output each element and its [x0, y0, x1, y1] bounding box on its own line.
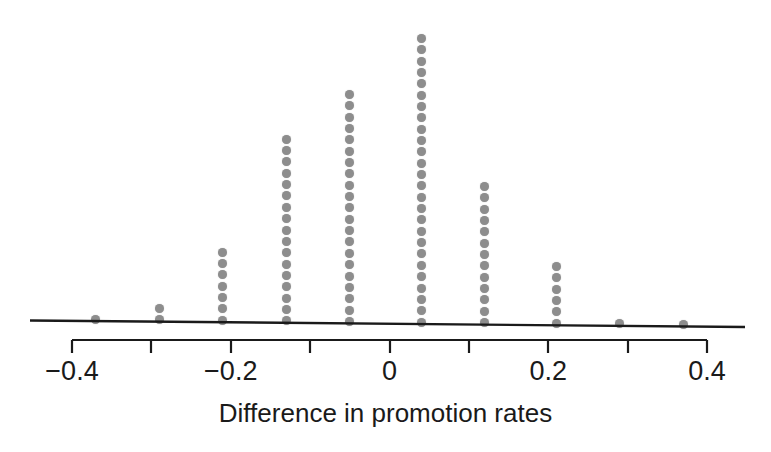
data-dot: [218, 270, 227, 279]
data-dot: [417, 295, 426, 304]
data-dot: [417, 136, 426, 145]
data-dot: [480, 261, 489, 270]
data-dot: [480, 182, 489, 191]
data-dot: [480, 239, 489, 248]
plot-area: [0, 0, 771, 330]
data-dot: [345, 101, 354, 110]
data-dot: [417, 113, 426, 122]
data-dot: [345, 203, 354, 212]
data-dot: [480, 295, 489, 304]
x-tick-label: −0.4: [45, 356, 98, 387]
data-dot: [345, 158, 354, 167]
data-dot: [282, 191, 291, 200]
data-dot: [417, 34, 426, 43]
dotplot-figure: −0.4−0.200.20.4 Difference in promotion …: [0, 0, 771, 452]
data-dot: [218, 259, 227, 268]
data-dot: [417, 181, 426, 190]
data-dot: [218, 293, 227, 302]
data-dot: [417, 57, 426, 66]
data-dot: [480, 250, 489, 259]
data-dot: [345, 215, 354, 224]
data-dot: [552, 273, 561, 282]
data-dot: [417, 68, 426, 77]
data-dot: [282, 260, 291, 269]
data-dot: [282, 282, 291, 291]
data-dot: [480, 273, 489, 282]
data-dot: [282, 248, 291, 257]
data-dot: [282, 157, 291, 166]
data-dot: [417, 272, 426, 281]
data-dot: [417, 238, 426, 247]
data-dot: [282, 146, 291, 155]
data-dot: [345, 237, 354, 246]
x-tick-label: 0.4: [688, 356, 726, 387]
data-dot: [345, 147, 354, 156]
data-dot: [345, 124, 354, 133]
data-dot: [218, 248, 227, 257]
data-dot: [417, 215, 426, 224]
data-dot: [417, 147, 426, 156]
data-dot: [345, 294, 354, 303]
data-dot: [282, 214, 291, 223]
data-dot: [417, 102, 426, 111]
data-dot: [282, 180, 291, 189]
data-dot: [345, 135, 354, 144]
x-tick-label: 0.2: [529, 356, 567, 387]
data-dot: [417, 284, 426, 293]
data-dot: [218, 282, 227, 291]
data-dot: [552, 296, 561, 305]
data-dot: [282, 237, 291, 246]
data-dot: [417, 45, 426, 54]
data-dot: [345, 113, 354, 122]
data-dot: [345, 90, 354, 99]
data-dot: [417, 159, 426, 168]
data-dot: [417, 204, 426, 213]
data-dot: [282, 203, 291, 212]
data-dot: [417, 261, 426, 270]
data-dot: [417, 125, 426, 134]
x-tick-label: −0.2: [204, 356, 257, 387]
x-tick-label: 0: [382, 356, 397, 387]
data-dot: [282, 226, 291, 235]
data-dot: [417, 249, 426, 258]
data-dot: [345, 283, 354, 292]
data-dot: [345, 272, 354, 281]
data-dot: [480, 216, 489, 225]
data-dot: [282, 271, 291, 280]
data-dot: [345, 181, 354, 190]
data-dot: [480, 205, 489, 214]
data-dot: [345, 169, 354, 178]
x-tick-labels: −0.4−0.200.20.4: [0, 356, 771, 392]
axis-ticks: [72, 340, 707, 353]
data-dot: [282, 169, 291, 178]
data-dot: [345, 260, 354, 269]
data-dot: [282, 135, 291, 144]
data-dot: [480, 193, 489, 202]
baseline: [0, 310, 771, 338]
data-dot: [417, 227, 426, 236]
data-dot: [417, 79, 426, 88]
data-dot: [552, 262, 561, 271]
x-axis-title: Difference in promotion rates: [0, 398, 771, 429]
data-dot: [480, 284, 489, 293]
data-dot: [417, 193, 426, 202]
data-dot: [345, 249, 354, 258]
data-dot: [480, 227, 489, 236]
data-dot: [345, 226, 354, 235]
data-dot: [345, 192, 354, 201]
data-dot: [552, 285, 561, 294]
data-dot: [282, 294, 291, 303]
data-dot: [417, 170, 426, 179]
data-dot: [417, 91, 426, 100]
